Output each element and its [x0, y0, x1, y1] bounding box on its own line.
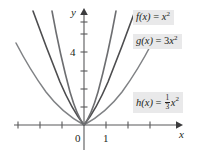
y-axis-arrowhead — [80, 8, 88, 15]
y-axis-label: y — [70, 6, 76, 18]
x-tick-label-1: 1 — [103, 132, 109, 144]
equation-g-equals: = — [156, 35, 162, 46]
equation-h-fraction: 13 — [165, 94, 171, 111]
equation-label-g: g(x) = 3x2 — [133, 34, 182, 49]
equation-h-exponent: 2 — [176, 95, 180, 103]
equation-h-function: h(x) — [136, 97, 153, 108]
y-tick-label-4: 4 — [70, 46, 76, 58]
equation-f-function: f(x) — [136, 11, 151, 22]
equation-f-exponent: 2 — [166, 10, 170, 18]
origin-tick-label: 0 — [75, 132, 81, 144]
equation-label-h: h(x) = 13x2 — [133, 92, 183, 113]
equation-h-equals: = — [156, 97, 162, 108]
x-axis-label: x — [178, 128, 184, 140]
equation-g-exponent: 2 — [174, 34, 178, 42]
equation-g-function: g(x) — [136, 35, 153, 46]
equation-label-f: f(x) = x2 — [133, 10, 174, 25]
equation-f-equals: = — [153, 11, 159, 22]
equation-h-denominator: 3 — [165, 103, 171, 111]
parabola-comparison-figure: y x 0 1 4 f(x) = x2 g(x) = 3x2 h(x) = 13… — [0, 0, 203, 161]
